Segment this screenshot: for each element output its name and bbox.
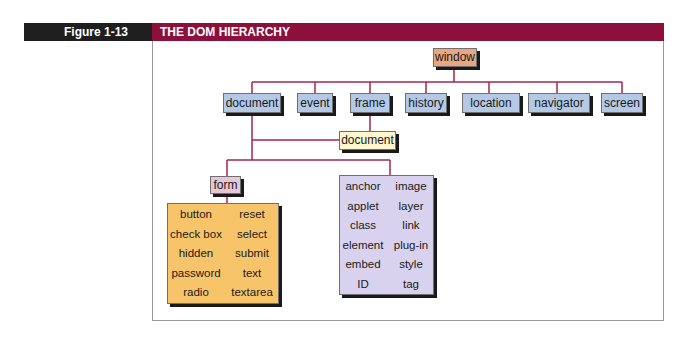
node-location: location — [462, 93, 520, 113]
document-object-item: embed — [340, 258, 386, 270]
node-screen: screen — [601, 93, 643, 113]
node-document: document — [223, 93, 281, 113]
document-object-item: image — [388, 180, 434, 192]
document-objects-box: anchorimageappletlayerclasslinkelementpl… — [339, 175, 434, 295]
document-object-item: plug-in — [388, 239, 434, 251]
form-element-item: password — [168, 267, 224, 279]
form-element-item: select — [224, 228, 280, 240]
form-element-item: textarea — [224, 286, 280, 298]
node-event: event — [297, 93, 333, 113]
document-object-item: element — [340, 239, 386, 251]
document-object-item: applet — [340, 200, 386, 212]
form-element-item: submit — [224, 247, 280, 259]
node-frame: frame — [350, 93, 390, 113]
document-object-item: layer — [388, 200, 434, 212]
document-object-item: anchor — [340, 180, 386, 192]
form-element-item: text — [224, 267, 280, 279]
node-history: history — [405, 93, 447, 113]
node-window: window — [433, 48, 477, 67]
document-object-item: tag — [388, 278, 434, 290]
document-object-item: style — [388, 258, 434, 270]
node-navigator: navigator — [528, 93, 590, 113]
form-element-item: reset — [224, 208, 280, 220]
document-object-item: class — [340, 219, 386, 231]
form-element-item: button — [168, 208, 224, 220]
node-form: form — [210, 176, 241, 194]
node-frame-document: document — [339, 131, 396, 150]
form-elements-box: buttonresetcheck boxselecthiddensubmitpa… — [167, 203, 279, 304]
document-object-item: ID — [340, 278, 386, 290]
form-element-item: hidden — [168, 247, 224, 259]
form-element-item: radio — [168, 286, 224, 298]
form-element-item: check box — [168, 228, 224, 240]
document-object-item: link — [388, 219, 434, 231]
